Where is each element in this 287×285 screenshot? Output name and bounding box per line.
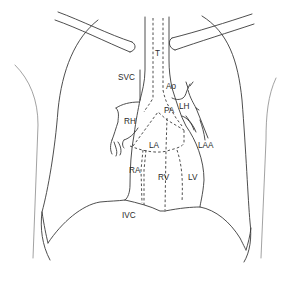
left-hemidiaphragm bbox=[165, 207, 246, 250]
rv-center-dashed bbox=[165, 118, 167, 210]
label-left-atrium: LA bbox=[149, 141, 160, 150]
ra-rv-divider-1 bbox=[141, 150, 143, 203]
ra-rv-divider-2 bbox=[144, 150, 146, 205]
label-aorta: Ao bbox=[166, 82, 176, 91]
right-soft-tissue-outline bbox=[261, 78, 276, 258]
label-right-atrium: RA bbox=[129, 166, 141, 175]
label-right-ventricle: RV bbox=[158, 173, 170, 182]
right-hemidiaphragm bbox=[48, 200, 125, 243]
left-chest-wall bbox=[202, 16, 251, 262]
left-soft-tissue-outline bbox=[15, 65, 38, 258]
chest-heart-diagram: T SVC Ao PA LH RH LA LAA RA RV LV IVC bbox=[0, 0, 287, 285]
label-right-hilum: RH bbox=[124, 117, 136, 126]
heart-base-line bbox=[125, 200, 165, 211]
label-pulmonary-artery: PA bbox=[164, 106, 175, 115]
trachea-left-wall bbox=[169, 17, 172, 88]
label-left-ventricle: LV bbox=[188, 173, 198, 182]
label-ivc: IVC bbox=[122, 211, 136, 220]
label-svc: SVC bbox=[118, 73, 135, 82]
trachea-right-wall bbox=[140, 17, 145, 100]
right-chest-wall bbox=[41, 20, 98, 260]
left-clavicle bbox=[169, 14, 254, 50]
label-trachea: T bbox=[155, 49, 160, 58]
right-clavicle bbox=[55, 12, 135, 52]
rv-lv-divider bbox=[177, 150, 182, 202]
label-left-atrial-appendage: LAA bbox=[198, 141, 214, 150]
right-heart-border bbox=[125, 100, 140, 200]
label-left-hilum: LH bbox=[179, 102, 190, 111]
